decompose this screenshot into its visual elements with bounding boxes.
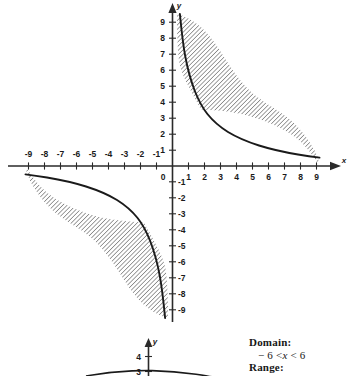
x-tick-1: 1 (186, 172, 191, 182)
y-tick--3: -3 (178, 209, 186, 219)
y-axis-negative-labels: -1 -2 -3 -4 -5 -6 -7 -8 -9 (178, 177, 186, 315)
domain-value-prefix: − 6 < (258, 349, 282, 361)
range-label: Range: (249, 361, 306, 374)
x-tick-4: 4 (234, 172, 239, 182)
x-tick-5: 5 (250, 172, 255, 182)
y-tick--1: -1 (178, 177, 186, 187)
lower-graph-y-axis-label: y (152, 337, 158, 346)
x-tick--8: -8 (41, 149, 49, 159)
x-tick--3: -3 (121, 149, 129, 159)
x-tick--6: -6 (73, 149, 81, 159)
y-tick-9: 9 (160, 17, 165, 27)
x-tick-2: 2 (202, 172, 207, 182)
y-tick--5: -5 (178, 241, 186, 251)
hatched-region-quadrant-I (177, 15, 319, 163)
lower-partial-graph: 4 3 y (86, 337, 212, 376)
x-tick--4: -4 (105, 149, 113, 159)
x-axis-arrowhead (330, 162, 341, 170)
y-tick-4: 4 (160, 97, 165, 107)
x-tick-8: 8 (298, 172, 303, 182)
answer-text-block: Domain: − 6 <x < 6 Range: (249, 336, 306, 374)
y-axis-label: y (176, 1, 182, 10)
origin-label: 0 (161, 172, 166, 182)
y-tick--2: -2 (178, 193, 186, 203)
y-tick--8: -8 (178, 289, 186, 299)
y-tick-1: 1 (160, 145, 165, 155)
y-axis-positive-labels: 1 2 3 4 5 6 7 8 9 (160, 17, 165, 155)
x-axis-label: x (341, 156, 347, 165)
figure-canvas: -9 -8 -7 -6 -5 -4 -3 -2 -1 1 2 3 4 5 6 7… (0, 0, 356, 376)
y-tick-2: 2 (160, 129, 165, 139)
y-tick-7: 7 (160, 49, 165, 59)
y-tick-8: 8 (160, 33, 165, 43)
x-tick--7: -7 (57, 149, 65, 159)
y-tick-3: 3 (160, 113, 165, 123)
x-tick-7: 7 (282, 172, 287, 182)
x-tick--2: -2 (137, 149, 145, 159)
hatched-region-quadrant-III (26, 170, 168, 318)
x-tick--9: -9 (25, 149, 33, 159)
domain-value-suffix: < 6 (290, 349, 305, 361)
x-axis-positive-labels: 1 2 3 4 5 6 7 8 9 (186, 172, 319, 182)
hyperbola-graph-svg: -9 -8 -7 -6 -5 -4 -3 -2 -1 1 2 3 4 5 6 7… (0, 0, 356, 376)
lower-graph-y-axis-arrowhead (145, 338, 153, 347)
x-tick-9: 9 (314, 172, 319, 182)
x-axis-negative-labels: -9 -8 -7 -6 -5 -4 -3 -2 -1 (25, 149, 161, 159)
x-tick-3: 3 (218, 172, 223, 182)
x-tick-6: 6 (266, 172, 271, 182)
lower-graph-y-tick-4: 4 (136, 352, 141, 362)
domain-label: Domain: (249, 336, 306, 349)
y-axis-arrowhead (168, 3, 176, 13)
domain-value-variable: x (282, 349, 287, 361)
domain-value: − 6 <x < 6 (249, 349, 306, 362)
y-tick--7: -7 (178, 273, 186, 283)
y-tick-5: 5 (160, 81, 165, 91)
y-tick--9: -9 (178, 305, 186, 315)
y-tick--4: -4 (178, 225, 186, 235)
y-tick--6: -6 (178, 257, 186, 267)
x-tick--5: -5 (89, 149, 97, 159)
y-tick-6: 6 (160, 65, 165, 75)
